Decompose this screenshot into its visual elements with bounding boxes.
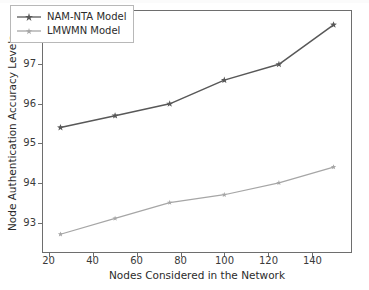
data-point-marker <box>57 124 64 130</box>
series-layer <box>57 21 337 236</box>
chart-figure: 939495969798 20406080100120140 Nodes Con… <box>0 0 369 290</box>
x-tick-label: 40 <box>73 256 113 266</box>
x-tick-label: 100 <box>204 256 244 266</box>
series-line <box>60 167 333 234</box>
figure-top-margin <box>0 0 369 3</box>
plot-canvas <box>43 11 351 252</box>
data-point-marker <box>112 112 119 118</box>
x-tick-label: 120 <box>248 256 288 266</box>
legend-line-sample-primary <box>16 11 42 23</box>
legend-line-sample-secondary <box>16 25 42 37</box>
legend-label-nam-nta: NAM-NTA Model <box>47 12 126 22</box>
data-point-marker <box>166 100 173 106</box>
data-point-marker <box>276 180 281 185</box>
data-point-marker <box>331 164 336 169</box>
y-axis-label: Node Authentication Accuracy Levels <box>7 8 18 258</box>
legend-label-lmwmn: LMWMN Model <box>47 26 120 36</box>
data-point-marker <box>112 216 117 221</box>
x-tick-label: 20 <box>29 256 69 266</box>
x-tick-label: 60 <box>117 256 157 266</box>
legend-item-nam-nta[interactable]: NAM-NTA Model <box>16 10 126 24</box>
chart-legend: NAM-NTA Model LMWMN Model <box>10 5 134 43</box>
data-point-marker <box>221 77 228 83</box>
plot-area <box>42 10 352 253</box>
data-point-marker <box>222 192 227 197</box>
x-tick-label: 140 <box>292 256 332 266</box>
x-axis-label: Nodes Considered in the Network <box>42 270 352 281</box>
legend-item-lmwmn[interactable]: LMWMN Model <box>16 24 126 38</box>
x-tick-label: 80 <box>161 256 201 266</box>
series-lmwmn <box>58 164 336 236</box>
data-point-marker <box>58 231 63 236</box>
data-point-marker <box>167 200 172 205</box>
